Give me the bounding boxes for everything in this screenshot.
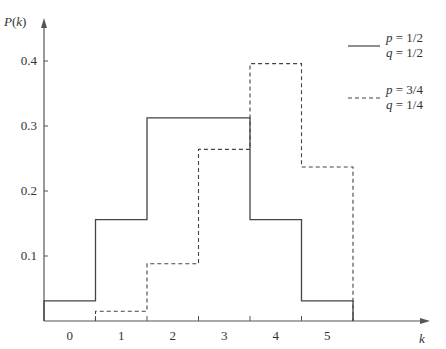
y-tick-label: 0.2 [21, 183, 37, 198]
legend-label-p: p = 3/4 [385, 82, 423, 97]
y-tick-label: 0.1 [21, 248, 37, 263]
x-axis-label: k [419, 331, 425, 346]
axes: P(k)k0.10.20.30.4012345 [3, 14, 430, 346]
x-tick-label: 0 [67, 328, 74, 343]
x-tick-label: 5 [324, 328, 331, 343]
chart: P(k)k0.10.20.30.4012345 p = 1/2q = 1/2p … [0, 0, 446, 349]
legend: p = 1/2q = 1/2p = 3/4q = 1/4 [348, 30, 423, 112]
series [44, 64, 353, 321]
y-axis-label: P(k) [3, 14, 26, 29]
legend-label-q: q = 1/4 [386, 97, 423, 112]
legend-label-q: q = 1/2 [386, 45, 423, 60]
legend-label-p: p = 1/2 [385, 30, 423, 45]
y-tick-label: 0.4 [21, 53, 38, 68]
x-tick-label: 2 [170, 328, 177, 343]
x-axis-arrow-icon [420, 318, 430, 324]
y-tick-label: 0.3 [21, 118, 37, 133]
x-tick-label: 3 [221, 328, 228, 343]
x-tick-label: 1 [118, 328, 125, 343]
x-tick-label: 4 [273, 328, 280, 343]
series-p34-step [96, 64, 354, 321]
y-axis-arrow-icon [41, 18, 47, 28]
